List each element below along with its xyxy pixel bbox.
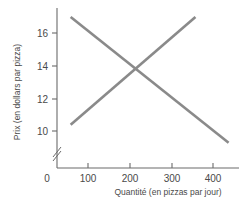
axis-lines bbox=[57, 8, 239, 168]
x-tick-label-200: 200 bbox=[122, 173, 139, 184]
y-axis-title: Prix (en dollars par pizza) bbox=[12, 44, 22, 141]
curves bbox=[71, 17, 229, 143]
chart-figure: 16 14 12 10 0 100 200 300 400 Quantité (… bbox=[0, 0, 246, 208]
y-tick-label-14: 14 bbox=[37, 61, 49, 72]
x-tick-label-400: 400 bbox=[205, 173, 222, 184]
x-tick-labels: 0 100 200 300 400 bbox=[44, 173, 222, 184]
demand-curve bbox=[71, 17, 229, 143]
y-tick-label-16: 16 bbox=[37, 28, 49, 39]
x-tick-marks bbox=[88, 163, 213, 168]
y-tick-labels: 16 14 12 10 bbox=[37, 28, 49, 137]
x-tick-label-300: 300 bbox=[164, 173, 181, 184]
y-tick-label-12: 12 bbox=[37, 94, 49, 105]
x-tick-label-0: 0 bbox=[44, 173, 50, 184]
y-tick-marks bbox=[52, 33, 57, 131]
x-axis-title: Quantité (en pizzas par jour) bbox=[114, 187, 221, 197]
y-tick-label-10: 10 bbox=[37, 126, 49, 137]
supply-demand-chart: 16 14 12 10 0 100 200 300 400 Quantité (… bbox=[0, 0, 246, 208]
x-tick-label-100: 100 bbox=[80, 173, 97, 184]
